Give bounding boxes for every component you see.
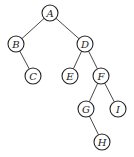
node-label: A	[45, 8, 53, 19]
edge-B-C	[20, 51, 29, 69]
edge-A-D	[56, 18, 79, 38]
tree-nodes: ABCDEFGHI	[8, 5, 126, 150]
edge-D-F	[89, 51, 98, 69]
edge-A-B	[22, 18, 44, 38]
edge-G-H	[89, 116, 98, 135]
edge-F-G	[89, 83, 97, 101]
edge-F-I	[105, 83, 115, 102]
tree-node-D: D	[77, 36, 93, 52]
tree-node-I: I	[110, 101, 126, 117]
node-label: E	[65, 71, 74, 82]
tree-node-A: A	[42, 5, 58, 21]
tree-node-C: C	[25, 68, 41, 84]
binary-tree-diagram: ABCDEFGHI	[0, 0, 134, 157]
node-label: G	[82, 104, 90, 115]
node-label: C	[29, 71, 37, 82]
node-label: F	[97, 71, 106, 82]
tree-node-H: H	[94, 134, 110, 150]
edge-D-E	[73, 51, 81, 69]
tree-node-E: E	[62, 68, 78, 84]
node-label: B	[11, 39, 19, 50]
node-label: D	[80, 39, 89, 50]
tree-node-G: G	[78, 101, 94, 117]
node-label: H	[97, 137, 107, 148]
tree-node-F: F	[93, 68, 109, 84]
tree-node-B: B	[8, 36, 24, 52]
